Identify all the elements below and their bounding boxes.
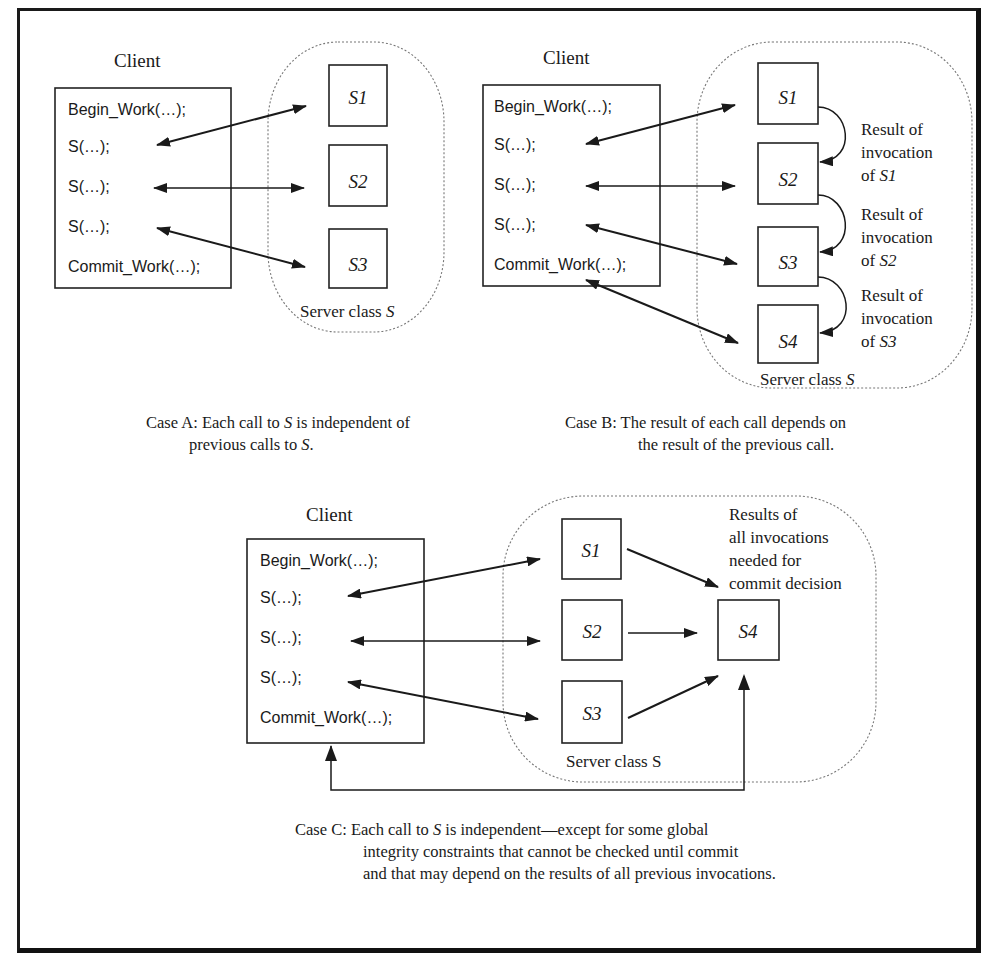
case-b-server-class-label: Server class S	[760, 370, 855, 389]
case-c-arrow-s3-to-s4	[628, 676, 718, 718]
case-a-s3-label: S3	[349, 254, 368, 275]
case-b-commit-work: Commit_Work(…);	[494, 256, 626, 274]
case-c-call-1: S(…);	[260, 589, 302, 606]
case-a-panel: Client Begin_Work(…); S(…); S(…); S(…); …	[55, 42, 444, 454]
case-b-call-2: S(…);	[494, 176, 536, 193]
case-c-panel: Client Begin_Work(…); S(…); S(…); S(…); …	[247, 496, 876, 883]
svg-text:of S1: of S1	[861, 166, 896, 185]
case-a-s2-label: S2	[349, 171, 369, 192]
case-a-caption-line1: Case A: Each call to S is independent of	[146, 413, 410, 432]
case-c-s4-label: S4	[739, 621, 759, 642]
svg-text:invocation: invocation	[861, 143, 933, 162]
case-b-s2-label: S2	[779, 169, 799, 190]
svg-text:commit decision: commit decision	[729, 574, 842, 593]
svg-text:Result of: Result of	[861, 286, 923, 305]
case-c-call-2: S(…);	[260, 629, 302, 646]
svg-text:of S2: of S2	[861, 251, 897, 270]
case-b-begin-work: Begin_Work(…);	[494, 98, 612, 116]
case-b-call-3: S(…);	[494, 216, 536, 233]
case-c-arrowhead-to-s4	[738, 674, 750, 690]
case-b-dependency-s1-s2	[818, 107, 845, 162]
svg-text:of S3: of S3	[861, 332, 896, 351]
svg-text:invocation: invocation	[861, 228, 933, 247]
case-a-call-1: S(…);	[68, 138, 110, 155]
case-c-arrowhead-to-commit	[325, 745, 337, 761]
case-a-s1-label: S1	[349, 87, 368, 108]
case-c-begin-work: Begin_Work(…);	[260, 552, 378, 570]
case-b-dependency-s3-s4	[818, 277, 846, 333]
case-b-s1-label: S1	[779, 87, 798, 108]
case-a-server-class-label: Server class S	[300, 302, 395, 321]
case-b-arrow-s4	[586, 280, 738, 343]
case-c-aggregator-note: Results of all invocations needed for co…	[729, 505, 842, 593]
case-c-commit-work: Commit_Work(…);	[260, 709, 392, 727]
case-a-begin-work: Begin_Work(…);	[68, 101, 186, 119]
case-c-client-title: Client	[306, 504, 353, 525]
svg-text:all invocations: all invocations	[729, 528, 829, 547]
case-c-s3-label: S3	[583, 703, 602, 724]
svg-text:Results of: Results of	[729, 505, 798, 524]
case-b-panel: Client Begin_Work(…); S(…); S(…); S(…); …	[483, 42, 972, 454]
case-a-call-2: S(…);	[68, 178, 110, 195]
case-c-s1-label: S1	[582, 540, 601, 561]
case-b-call-1: S(…);	[494, 136, 536, 153]
case-b-dependency-label-1: Result of invocation of S1	[861, 120, 933, 185]
case-b-server-class-boundary	[697, 42, 972, 388]
case-a-commit-work: Commit_Work(…);	[68, 258, 200, 276]
case-a-call-3: S(…);	[68, 218, 110, 235]
case-b-s3-label: S3	[779, 252, 798, 273]
case-c-server-class-label: Server class S	[566, 752, 661, 771]
case-c-caption-line3: and that may depend on the results of al…	[363, 864, 776, 883]
case-b-dependency-label-2: Result of invocation of S2	[861, 205, 933, 270]
svg-text:Result of: Result of	[861, 205, 923, 224]
server-class-dependency-diagram: Client Begin_Work(…); S(…); S(…); S(…); …	[0, 0, 1000, 973]
case-b-dependency-label-3: Result of invocation of S3	[861, 286, 933, 351]
case-c-caption-line1: Case C: Each call to S is independent—ex…	[295, 820, 709, 839]
case-a-caption-line2: previous calls to S.	[189, 435, 314, 454]
case-c-caption-line2: integrity constraints that cannot be che…	[363, 842, 739, 861]
svg-text:Result of: Result of	[861, 120, 923, 139]
svg-text:invocation: invocation	[861, 309, 933, 328]
case-c-s2-label: S2	[583, 621, 603, 642]
case-c-call-3: S(…);	[260, 669, 302, 686]
case-a-client-title: Client	[114, 50, 161, 71]
svg-text:needed for: needed for	[729, 551, 802, 570]
case-b-client-title: Client	[543, 47, 590, 68]
case-b-s4-label: S4	[779, 331, 799, 352]
case-b-dependency-s2-s3	[818, 195, 845, 252]
case-b-caption-line1: Case B: The result of each call depends …	[565, 413, 846, 432]
case-c-arrow-s1-to-s4	[627, 549, 718, 587]
case-b-caption-line2: the result of the previous call.	[638, 435, 834, 454]
